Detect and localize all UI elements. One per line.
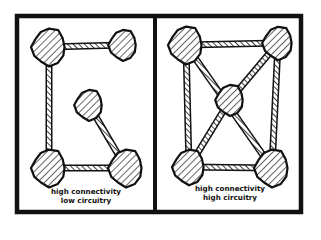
right-caption-line1: high connectivity bbox=[160, 184, 300, 193]
left-node-top-left bbox=[31, 29, 65, 67]
left-caption-line1: high connectivity bbox=[16, 187, 156, 196]
left-node-bottom-left bbox=[31, 150, 65, 188]
left-panel-caption: high connectivity low circuitry bbox=[16, 187, 156, 205]
left-node-bottom-right bbox=[108, 150, 142, 188]
network-nodes bbox=[31, 27, 292, 188]
left-node-top-right bbox=[108, 30, 136, 61]
left-node-center bbox=[74, 90, 102, 121]
left-caption-line2: low circuitry bbox=[16, 196, 156, 205]
right-node-top-left bbox=[168, 27, 202, 65]
right-panel-caption: high connectivity high circuitry bbox=[160, 184, 300, 202]
right-caption-line2: high circuitry bbox=[160, 193, 300, 202]
right-node-bottom-left bbox=[172, 150, 204, 186]
